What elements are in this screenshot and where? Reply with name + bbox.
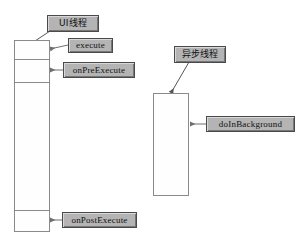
label-on-pre-execute-text: onPreExecute (73, 66, 125, 75)
async-thread-pointer-line (171, 62, 189, 93)
ui-thread-divider-2 (14, 82, 50, 83)
ui-thread-divider-1 (14, 59, 50, 60)
label-on-post-execute[interactable]: onPostExecute (62, 212, 137, 228)
ui-thread-lifeline (14, 40, 50, 232)
async-thread-lifeline (153, 93, 189, 196)
label-execute[interactable]: execute (68, 38, 113, 53)
diagram-canvas: UI线程 execute onPreExecute onPostExecute … (0, 0, 305, 251)
ui-thread-divider-3 (14, 210, 50, 211)
label-execute-text: execute (76, 41, 105, 50)
label-do-in-background[interactable]: doInBackground (206, 116, 295, 132)
label-ui-thread-text: UI线程 (59, 19, 87, 28)
label-on-pre-execute[interactable]: onPreExecute (63, 62, 135, 78)
label-async-thread-text: 异步线程 (182, 50, 219, 59)
label-async-thread[interactable]: 异步线程 (174, 46, 226, 63)
label-do-in-background-text: doInBackground (219, 120, 282, 129)
label-on-post-execute-text: onPostExecute (71, 216, 127, 225)
execute-pointer-line (50, 45, 68, 49)
label-ui-thread[interactable]: UI线程 (47, 15, 99, 32)
